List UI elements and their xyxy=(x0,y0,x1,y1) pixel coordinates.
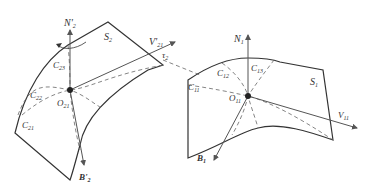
label-c13: C13 xyxy=(251,63,263,74)
label-c22: C22 xyxy=(30,90,42,101)
left-surface-outline xyxy=(15,22,163,180)
diagram-canvas: N'2 S2 V'21 τ2 C23 C22 O21 C21 B'2 N1 C1… xyxy=(0,0,369,195)
label-c11: C11 xyxy=(188,82,200,93)
label-b2: B'2 xyxy=(78,172,91,183)
label-tau2: τ2 xyxy=(162,50,168,61)
curve-c22 xyxy=(22,65,163,115)
label-v21: V'21 xyxy=(149,36,163,48)
label-n1: N1 xyxy=(233,33,244,45)
label-s2: S2 xyxy=(104,31,112,43)
label-c23: C23 xyxy=(53,60,65,71)
label-v11: V11 xyxy=(338,110,349,121)
label-o11: O11 xyxy=(229,93,241,104)
label-s1: S1 xyxy=(310,76,318,88)
left-surface-s2: N'2 S2 V'21 τ2 C23 C22 O21 C21 B'2 xyxy=(15,17,200,183)
binormal-b1-arrow xyxy=(214,96,248,160)
label-o21: O21 xyxy=(57,98,70,109)
binormal-b2-arrow xyxy=(70,90,84,165)
curve-c11 xyxy=(188,85,333,140)
label-n2: N'2 xyxy=(63,17,76,29)
right-surface-s1: N1 C13 C12 C11 S1 O11 V11 B1 xyxy=(188,33,357,164)
label-c12: C12 xyxy=(217,68,229,79)
connecting-dashed-line xyxy=(163,60,200,75)
origin-o21-point xyxy=(67,87,73,93)
label-b1: B1 xyxy=(196,153,206,164)
surfaces-diagram: N'2 S2 V'21 τ2 C23 C22 O21 C21 B'2 N1 C1… xyxy=(0,0,369,195)
label-c21: C21 xyxy=(22,120,34,131)
origin-o11-point xyxy=(245,93,251,99)
